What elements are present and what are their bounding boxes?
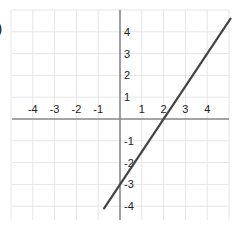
y-tick-label: 4	[124, 26, 130, 38]
y-tick-label: 3	[124, 48, 130, 60]
y-tick-label: -3	[124, 178, 134, 190]
x-tick-label: 2	[161, 103, 167, 115]
x-tick-label: 3	[182, 103, 188, 115]
y-tick-label: 2	[124, 69, 130, 81]
axes	[12, 10, 229, 220]
coordinate-plane: -4-3-2-112344321-1-2-3-4	[0, 0, 236, 243]
x-tick-label: -4	[28, 103, 38, 115]
y-tick-label: -4	[124, 200, 134, 212]
y-tick-label: 1	[124, 91, 130, 103]
x-tick-label: -1	[93, 103, 103, 115]
y-tick-label: -1	[124, 135, 134, 147]
x-tick-label: -2	[72, 103, 82, 115]
x-tick-label: 1	[139, 103, 145, 115]
x-tick-label: -3	[50, 103, 60, 115]
x-tick-label: 4	[204, 103, 210, 115]
